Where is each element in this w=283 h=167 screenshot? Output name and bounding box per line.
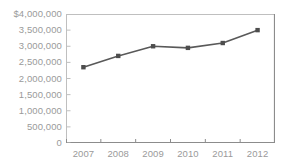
line-chart: $4,000,0003,500,0003,000,0002,500,0002,0… (0, 0, 283, 167)
y-axis-tick-label: 1,500,000 (0, 90, 62, 100)
y-axis-tick-label: $4,000,000 (0, 9, 62, 19)
data-point-marker (116, 54, 120, 58)
y-axis-tick-marks (67, 14, 71, 143)
y-axis-tick-label: 500,000 (0, 122, 62, 132)
data-point-marker (81, 65, 85, 69)
plot-area (66, 14, 275, 143)
y-axis-tick-labels: $4,000,0003,500,0003,000,0002,500,0002,0… (0, 0, 62, 167)
series-line (83, 30, 257, 67)
y-axis-tick-label: 3,000,000 (0, 41, 62, 51)
data-point-marker (255, 28, 259, 32)
y-axis-tick-label: 1,000,000 (0, 106, 62, 116)
y-axis-tick-label: 2,000,000 (0, 74, 62, 84)
x-axis-tick-label: 2009 (136, 148, 171, 162)
data-point-marker (186, 46, 190, 50)
x-axis-tick-label: 2007 (66, 148, 101, 162)
x-axis-tick-labels: 200720082009201020112012 (66, 148, 275, 162)
data-point-marker (221, 41, 225, 45)
x-axis-tick-label: 2010 (170, 148, 205, 162)
x-axis-tick-label: 2012 (240, 148, 275, 162)
y-axis-tick-label: 3,500,000 (0, 25, 62, 35)
series-markers (81, 28, 260, 69)
x-axis-tick-label: 2011 (205, 148, 240, 162)
y-axis-tick-label: 2,500,000 (0, 57, 62, 67)
plot-svg (66, 14, 275, 143)
data-point-marker (151, 44, 155, 48)
x-axis-tick-label: 2008 (101, 148, 136, 162)
y-axis-tick-label: 0 (0, 138, 62, 148)
axis-frame (66, 14, 275, 143)
